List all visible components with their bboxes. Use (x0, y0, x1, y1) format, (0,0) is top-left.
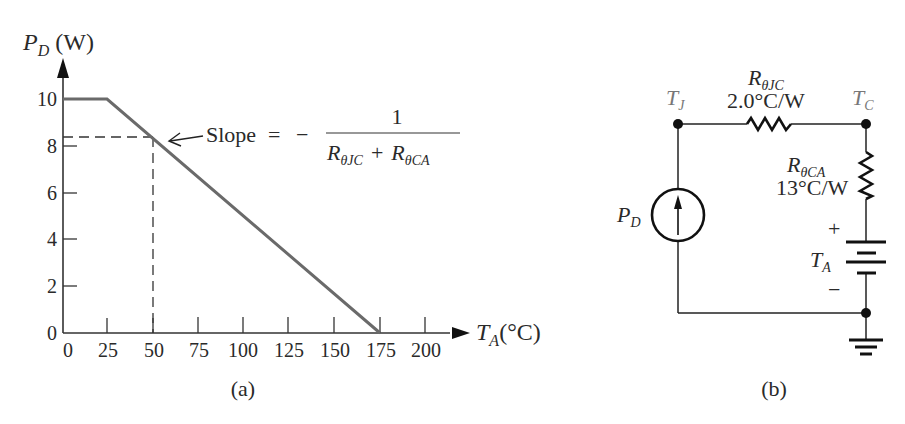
node-ground (861, 308, 871, 318)
svg-text:−: − (296, 122, 308, 147)
x-tick-label: 75 (189, 339, 209, 361)
x-tick-label: 50 (144, 339, 164, 361)
x-tick-label: 0 (63, 339, 73, 361)
svg-text:1: 1 (392, 104, 403, 129)
x-tick-label: 150 (320, 339, 350, 361)
x-tick-label: 175 (366, 339, 396, 361)
reference-guides (63, 137, 153, 333)
x-tick-label: 100 (228, 339, 258, 361)
x-tick-label: 200 (411, 339, 441, 361)
battery-minus: − (828, 277, 840, 302)
resistor-jc-icon (747, 118, 791, 130)
node-tj-label: TJ (666, 85, 685, 113)
node-tc-label: TC (852, 85, 874, 113)
derating-chart: 0 2 4 6 8 10 0 25 50 75 100 125 150 175 … (22, 29, 541, 401)
y-tick-label: 10 (37, 88, 57, 110)
y-tick-label: 6 (47, 182, 57, 204)
y-tick-label: 2 (47, 275, 57, 297)
slope-annotation: Slope = − 1 RθJC+RθCA (206, 104, 460, 168)
caption-a: (a) (231, 376, 255, 401)
y-tick-label: 0 (47, 322, 57, 344)
x-tick-label: 125 (274, 339, 304, 361)
caption-b: (b) (761, 376, 787, 401)
svg-text:=: = (268, 122, 280, 147)
current-arrow-icon (674, 195, 682, 209)
resistor-jc-value: 2.0°C/W (727, 88, 805, 113)
node-tj (673, 119, 683, 129)
x-axis-arrow-icon (452, 327, 470, 339)
figure-canvas: 0 2 4 6 8 10 0 25 50 75 100 125 150 175 … (0, 0, 905, 424)
thermal-circuit: TJ TC RθJC 2.0°C/W RθCA 13°C/W PD + TA −… (616, 65, 886, 401)
source-label: PD (616, 202, 641, 230)
y-ticks (63, 99, 77, 286)
ground-icon (849, 340, 883, 354)
x-tick-label: 25 (98, 339, 118, 361)
y-axis-label: PD(W) (22, 29, 94, 59)
svg-text:RθJC+RθCA: RθJC+RθCA (326, 140, 430, 168)
node-tc (861, 119, 871, 129)
y-tick-label: 8 (47, 135, 57, 157)
resistor-ca-value: 13°C/W (776, 175, 849, 200)
battery-icon (846, 242, 886, 273)
battery-plus: + (828, 216, 840, 241)
resistor-ca-icon (860, 152, 872, 199)
y-tick-label: 4 (47, 228, 57, 250)
svg-text:Slope: Slope (206, 122, 256, 147)
battery-label: TA (810, 247, 831, 275)
slope-arrow-icon (169, 133, 203, 146)
x-axis-label: TA(°C) (476, 319, 541, 349)
y-axis-arrow-icon (57, 58, 69, 78)
